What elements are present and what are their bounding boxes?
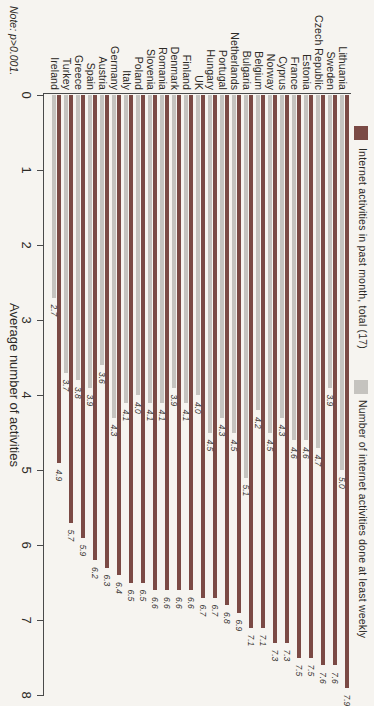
value-label-total: 6.3 (102, 575, 112, 587)
bar-total (297, 95, 301, 658)
legend-swatch-weekly (354, 380, 368, 394)
value-label-total: 7.3 (282, 650, 292, 662)
value-label-total: 6.5 (138, 590, 148, 602)
bar-weekly (340, 95, 344, 470)
x-tick (37, 95, 44, 96)
category-label: Norway (264, 0, 277, 90)
bar-weekly (112, 95, 116, 418)
x-tick (37, 620, 44, 621)
x-tick (37, 545, 44, 546)
value-label-total: 7.9 (342, 695, 352, 706)
bar-weekly (124, 95, 128, 403)
bar-total (273, 95, 277, 643)
value-label-weekly: 4.0 (133, 402, 143, 414)
value-label-weekly: 3.6 (97, 372, 107, 384)
bar-weekly (148, 95, 152, 403)
category-label: Finland (180, 0, 193, 90)
value-label-weekly: 4.1 (121, 410, 131, 422)
legend-label-weekly: Number of internet activities done at le… (357, 400, 369, 638)
bar-total (69, 95, 73, 523)
value-label-total: 7.1 (258, 635, 268, 647)
x-tick-label: 6 (19, 533, 34, 557)
legend-swatch-total (354, 126, 368, 140)
value-label-total: 6.7 (198, 605, 208, 617)
bar-total (201, 95, 205, 598)
value-label-weekly: 5.0 (337, 477, 347, 489)
bar-total (249, 95, 253, 628)
bar-total (213, 95, 217, 598)
category-label: Denmark (168, 0, 181, 90)
bar-weekly (292, 95, 296, 440)
category-label: Ireland (48, 0, 61, 90)
figure-screenshot: Internet activities in past month, total… (0, 0, 374, 706)
category-label: Hungary (204, 0, 217, 90)
value-label-total: 4.9 (54, 470, 64, 482)
value-label-weekly: 4.5 (205, 440, 215, 452)
bar-weekly (172, 95, 176, 388)
value-label-total: 6.6 (186, 597, 196, 609)
value-label-weekly: 4.6 (289, 447, 299, 459)
category-label: Poland (132, 0, 145, 90)
bar-chart: Internet activities in past month, total… (0, 0, 374, 706)
value-label-total: 6.5 (126, 590, 136, 602)
bar-total (309, 95, 313, 658)
category-label: UK (192, 0, 205, 90)
bar-weekly (184, 95, 188, 403)
bar-weekly (316, 95, 320, 448)
value-label-total: 6.6 (162, 597, 172, 609)
bar-weekly (208, 95, 212, 433)
category-axis-line (44, 93, 351, 94)
x-tick (37, 320, 44, 321)
bar-total (321, 95, 325, 665)
bar-weekly (76, 95, 80, 380)
bar-total (189, 95, 193, 590)
category-label: Turkey (60, 0, 73, 90)
value-label-weekly: 3.9 (85, 395, 95, 407)
x-tick-label: 8 (19, 683, 34, 706)
value-label-weekly: 4.3 (217, 425, 227, 437)
value-label-weekly: 3.7 (61, 380, 71, 392)
value-label-weekly: 4.1 (181, 410, 191, 422)
value-label-weekly: 4.2 (253, 417, 263, 429)
value-label-total: 7.5 (306, 665, 316, 677)
category-label: Sweden (324, 0, 337, 90)
bar-total (81, 95, 85, 538)
category-label: Greece (72, 0, 85, 90)
category-label: Belgium (252, 0, 265, 90)
value-label-total: 7.1 (246, 635, 256, 647)
category-label: Netherlands (228, 0, 241, 90)
bar-total (261, 95, 265, 628)
x-tick (37, 470, 44, 471)
category-label: Cyprus (276, 0, 289, 90)
bar-total (237, 95, 241, 613)
x-tick (37, 245, 44, 246)
bar-total (177, 95, 181, 590)
value-label-weekly: 3.8 (73, 387, 83, 399)
bar-weekly (64, 95, 68, 373)
x-tick-label: 1 (19, 158, 34, 182)
value-label-total: 5.9 (78, 545, 88, 557)
category-label: Portugal (216, 0, 229, 90)
category-label: Lithuania (336, 0, 349, 90)
bar-weekly (268, 95, 272, 433)
x-tick (37, 170, 44, 171)
value-label-weekly: 4.1 (157, 410, 167, 422)
value-label-total: 6.6 (150, 597, 160, 609)
value-label-total: 7.6 (330, 672, 340, 684)
bar-weekly (304, 95, 308, 440)
value-label-weekly: 4.5 (265, 440, 275, 452)
value-label-total: 6.2 (90, 567, 100, 579)
value-label-weekly: 3.9 (325, 395, 335, 407)
bar-total (333, 95, 337, 665)
x-tick (37, 695, 44, 696)
category-label: Slovenia (144, 0, 157, 90)
category-label: Czech Republic (312, 0, 325, 90)
bar-weekly (52, 95, 56, 298)
bar-total (57, 95, 61, 463)
value-label-total: 5.7 (66, 530, 76, 542)
bar-total (141, 95, 145, 583)
x-axis-title: Average number of activities (7, 235, 22, 535)
category-label: France (288, 0, 301, 90)
bar-weekly (88, 95, 92, 388)
bar-total (165, 95, 169, 590)
